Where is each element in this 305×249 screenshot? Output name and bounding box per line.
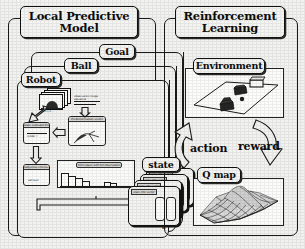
state-estimator-detail: model: f xyxy=(27,135,37,138)
vector-field-sketch xyxy=(73,129,103,145)
caption-rule-2 xyxy=(74,104,96,105)
reward-label: reward xyxy=(238,140,280,153)
goal-label: Goal xyxy=(99,44,135,59)
title-line-2: Learning xyxy=(202,22,258,34)
q-map-label: Q map xyxy=(197,167,241,183)
action-label: action xyxy=(190,142,227,155)
local-predictive-model-title: Local Predictive Model xyxy=(20,6,138,38)
state-label: state xyxy=(142,157,180,172)
histogram-ellipsis: ··· xyxy=(92,182,94,185)
reinforcement-learning-title: Reinforcement Learning xyxy=(175,6,285,38)
environment-label: Environment xyxy=(193,58,265,74)
predicted-feature-label: Predicted feature vector xyxy=(69,117,105,122)
estimator-rule xyxy=(27,133,47,134)
self-evaluation-module: Subjective criteria self-eval self-eval xyxy=(23,164,50,186)
q-map-panel xyxy=(193,178,284,226)
error-space-histogram: Error space with full observation ··· xyxy=(57,160,135,188)
robot-label: Robot xyxy=(21,72,61,87)
diagram-canvas: Local Predictive Model Goal Ball Robot O… xyxy=(0,0,305,249)
environment-panel xyxy=(185,68,284,118)
block-arrow-estimator-to-self-eval xyxy=(30,146,42,164)
state-estimator-module: State estimator Prediction error model m… xyxy=(23,122,50,144)
self-evaluation-label: Subjective criteria self-eval xyxy=(24,165,49,170)
q-map-surface xyxy=(194,179,284,226)
error-space-label: Error space with full observation xyxy=(76,162,122,168)
ball-label: Ball xyxy=(64,58,98,73)
block-arrow-stack-to-predictor xyxy=(80,107,90,117)
self-evaluation-detail: self-eval xyxy=(28,179,38,182)
title-line-2: Model xyxy=(59,22,98,34)
caption-rule-1 xyxy=(74,101,100,102)
environment-scene xyxy=(186,69,284,118)
block-arrow-predictor-to-estimator xyxy=(52,128,66,137)
histogram-axis xyxy=(60,186,134,187)
block-arrow-stack-to-estimator xyxy=(27,105,49,125)
predicted-feature-module: Predicted feature vector xyxy=(68,116,106,146)
state-card-title: state info vector xyxy=(131,189,157,195)
